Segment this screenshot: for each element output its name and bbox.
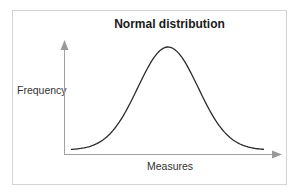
y-axis-arrow-icon [61,40,69,50]
chart-svg [0,0,297,193]
x-axis-arrow-icon [272,151,282,159]
normal-curve [71,47,264,149]
